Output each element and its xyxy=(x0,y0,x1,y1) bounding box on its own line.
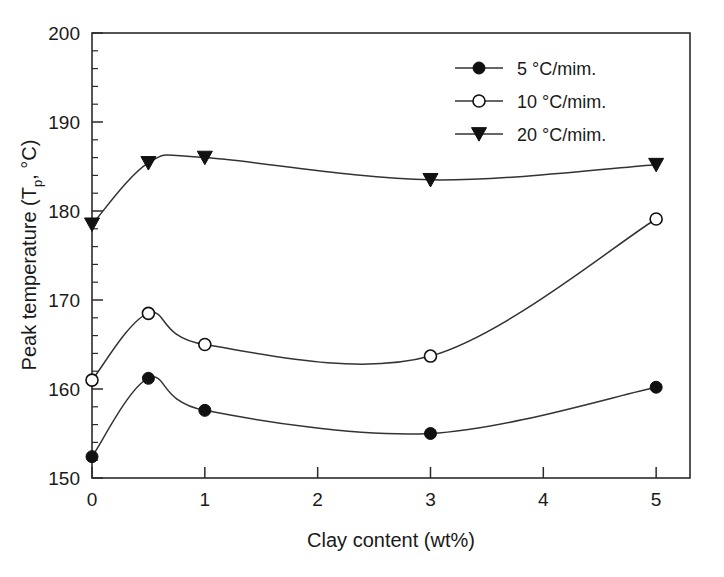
chart-background xyxy=(0,0,724,577)
y-axis-title-subscript: p xyxy=(30,180,45,187)
series-1-point-4-filled-circle-marker xyxy=(650,381,662,393)
series-1-point-2-filled-circle-marker xyxy=(199,404,211,416)
x-tick-label-0: 0 xyxy=(87,489,98,510)
y-tick-label-180: 180 xyxy=(48,201,80,222)
series-2-point-3-open-circle-marker xyxy=(424,350,436,362)
x-tick-label-5: 5 xyxy=(651,489,662,510)
y-axis-title-suffix: , °C) xyxy=(18,140,40,180)
y-tick-label-150: 150 xyxy=(48,468,80,489)
x-tick-label-1: 1 xyxy=(200,489,211,510)
peak-temperature-line-chart: 150160170180190200 012345 Clay content (… xyxy=(0,0,724,577)
legend-item-3-label: 20 °C/mim. xyxy=(517,125,606,145)
x-tick-label-4: 4 xyxy=(538,489,549,510)
series-2-point-4-open-circle-marker xyxy=(650,213,662,225)
chart-legend: 5 °C/mim.10 °C/mim.20 °C/mim. xyxy=(455,59,606,145)
x-axis-title: Clay content (wt%) xyxy=(307,529,475,551)
legend-item-1-filled-circle-marker xyxy=(473,62,485,74)
series-2-point-1-open-circle-marker xyxy=(142,307,154,319)
x-tick-label-3: 3 xyxy=(425,489,436,510)
series-1-point-3-filled-circle-marker xyxy=(424,428,436,440)
series-2-point-2-open-circle-marker xyxy=(199,339,211,351)
series-1-point-0-filled-circle-marker xyxy=(86,451,98,463)
x-tick-label-2: 2 xyxy=(312,489,323,510)
y-tick-label-170: 170 xyxy=(48,290,80,311)
legend-item-2-label: 10 °C/mim. xyxy=(517,92,606,112)
y-tick-label-160: 160 xyxy=(48,379,80,400)
y-axis-title-prefix: Peak temperature (T xyxy=(18,187,40,370)
y-tick-label-200: 200 xyxy=(48,23,80,44)
legend-item-1-label: 5 °C/mim. xyxy=(517,59,596,79)
chart-figure: 150160170180190200 012345 Clay content (… xyxy=(0,0,724,577)
series-2-point-0-open-circle-marker xyxy=(86,374,98,386)
legend-item-2-open-circle-marker xyxy=(473,95,485,107)
series-1-point-1-filled-circle-marker xyxy=(142,372,154,384)
y-tick-label-190: 190 xyxy=(48,112,80,133)
